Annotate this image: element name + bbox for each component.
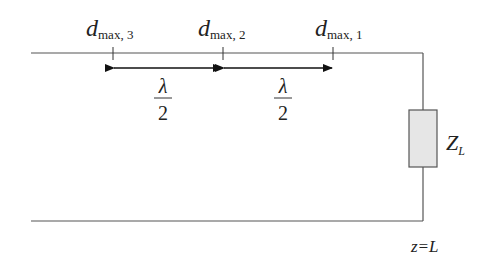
fraction-lambda-over-2-second: λ 2: [274, 75, 292, 124]
label-load-impedance: ZL: [446, 130, 465, 158]
svg-text:λ: λ: [158, 75, 168, 97]
label-dmax1: dmax, 1: [315, 15, 362, 42]
load-impedance-box: [409, 110, 437, 167]
fraction-lambda-over-2-first: λ 2: [154, 75, 172, 124]
svg-text:2: 2: [278, 102, 288, 124]
transmission-line-diagram: dmax, 3 dmax, 2 dmax, 1 λ 2 λ 2 ZL z=L: [0, 0, 490, 269]
label-dmax2: dmax, 2: [198, 15, 245, 42]
svg-text:2: 2: [158, 102, 168, 124]
label-position-z-equals-L: z=L: [410, 237, 439, 256]
label-dmax3: dmax, 3: [86, 15, 133, 42]
svg-text:λ: λ: [278, 75, 288, 97]
